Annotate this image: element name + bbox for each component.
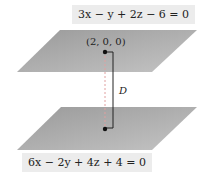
point-label: (2, 0, 0) (86, 36, 126, 47)
bottom-plane-equation: 6x − 2y + 4z + 4 = 0 (22, 153, 152, 172)
point-top (103, 50, 107, 54)
point-bottom (103, 127, 107, 131)
distance-label: D (119, 85, 127, 96)
planes-diagram (0, 0, 207, 175)
